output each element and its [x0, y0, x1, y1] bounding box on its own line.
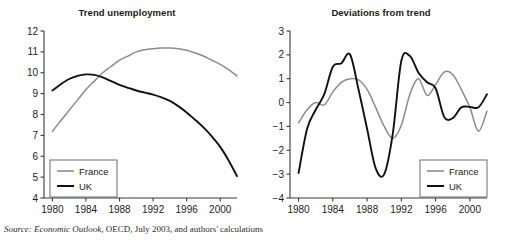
- chart-plot-right: −4−3−2−10123198019841988199219962000Fran…: [254, 0, 508, 218]
- legend-label-uk: UK: [449, 181, 463, 192]
- y-tick-label: 12: [27, 26, 39, 37]
- x-tick-label: 1988: [108, 204, 131, 215]
- y-tick-label: −1: [273, 121, 285, 132]
- x-tick-label: 1988: [356, 204, 379, 215]
- x-tick-label: 1980: [287, 204, 310, 215]
- chart-plot-left: 456789101112198019841988199219962000Fran…: [0, 0, 254, 218]
- x-tick-label: 1996: [176, 204, 199, 215]
- x-tick-label: 2000: [459, 204, 482, 215]
- y-tick-label: 6: [32, 151, 38, 162]
- y-tick-label: −2: [273, 145, 285, 156]
- y-tick-label: 5: [32, 172, 38, 183]
- y-tick-label: −3: [273, 169, 285, 180]
- y-tick-label: 1: [278, 73, 284, 84]
- x-tick-label: 1992: [142, 204, 165, 215]
- legend-label-france: France: [79, 166, 109, 177]
- source-note: Source: Economic Outlook, OECD, July 200…: [4, 224, 263, 234]
- source-rest: , OECD, July 2003, and authors' calculat…: [101, 224, 263, 234]
- y-tick-label: 9: [32, 88, 38, 99]
- x-tick-label: 1984: [75, 204, 98, 215]
- x-tick-label: 1992: [390, 204, 413, 215]
- y-tick-label: 3: [278, 26, 284, 37]
- y-tick-label: 10: [27, 67, 39, 78]
- source-publication: Economic Outlook: [32, 224, 101, 234]
- source-label: Source:: [4, 224, 32, 234]
- chart-legend[interactable]: FranceUK: [420, 160, 487, 197]
- legend-label-france: France: [449, 166, 479, 177]
- y-tick-label: 7: [32, 130, 38, 141]
- y-tick-label: 8: [32, 109, 38, 120]
- charts-row: Trend unemployment 456789101112198019841…: [0, 0, 508, 218]
- x-tick-label: 2000: [209, 204, 232, 215]
- y-tick-label: 11: [28, 46, 39, 57]
- x-tick-label: 1996: [424, 204, 447, 215]
- y-tick-label: −4: [273, 193, 285, 204]
- y-tick-label: 2: [278, 49, 284, 60]
- figure-container: Trend unemployment 456789101112198019841…: [0, 0, 508, 244]
- chart-legend[interactable]: FranceUK: [50, 160, 117, 197]
- series-line-france: [52, 48, 237, 131]
- chart-panel-deviations-from-trend: Deviations from trend −4−3−2−10123198019…: [254, 0, 508, 218]
- y-tick-label: 0: [278, 97, 284, 108]
- chart-panel-trend-unemployment: Trend unemployment 456789101112198019841…: [0, 0, 254, 218]
- x-tick-label: 1984: [322, 204, 345, 215]
- x-tick-label: 1980: [41, 204, 64, 215]
- legend-label-uk: UK: [79, 181, 93, 192]
- y-tick-label: 4: [32, 193, 38, 204]
- series-line-uk: [299, 53, 487, 177]
